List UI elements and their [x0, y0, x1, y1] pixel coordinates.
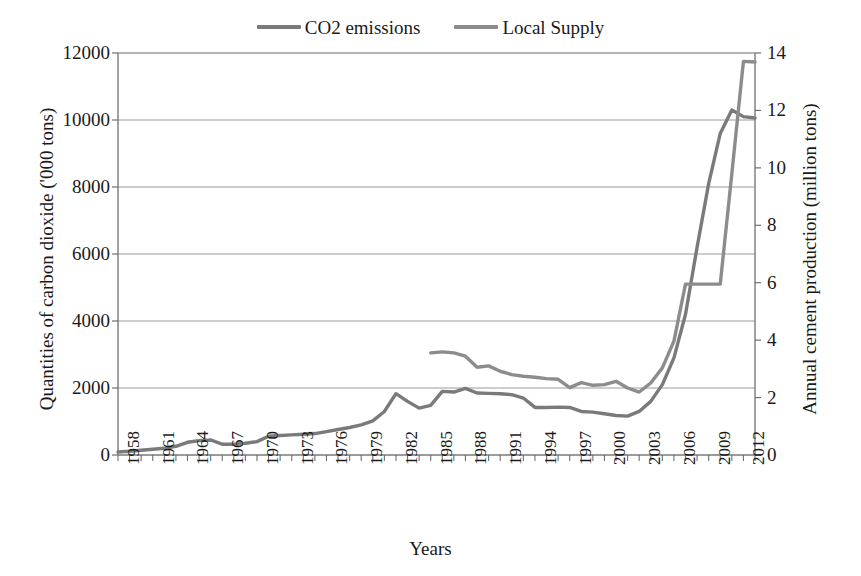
series-line-co2-emissions [118, 110, 755, 452]
y-tick-left-0: 0 [30, 445, 110, 464]
series-line-local-supply [431, 61, 755, 392]
x-tick-2012: 2012 [750, 431, 767, 465]
x-tick-1976: 1976 [333, 431, 350, 465]
x-tick-1961: 1961 [160, 431, 177, 465]
x-tick-1994: 1994 [542, 431, 559, 465]
chart-figure: CO2 emissions Local Supply Quantities of… [0, 0, 861, 576]
x-tick-1967: 1967 [229, 431, 246, 465]
y-tick-right-0: 0 [767, 445, 827, 464]
x-tick-1964: 1964 [194, 431, 211, 465]
plot-area: 020004000600080001000012000 02468101214 … [0, 0, 861, 576]
x-tick-2000: 2000 [611, 431, 628, 465]
plot-svg [0, 0, 861, 576]
gridlines [118, 53, 755, 388]
x-tick-1997: 1997 [577, 431, 594, 465]
x-tick-2003: 2003 [646, 431, 663, 465]
y-tick-left-8000: 8000 [30, 177, 110, 196]
x-tick-1973: 1973 [299, 431, 316, 465]
y-tick-left-10000: 10000 [30, 110, 110, 129]
x-tick-2006: 2006 [681, 431, 698, 465]
x-tick-1979: 1979 [368, 431, 385, 465]
y-tick-right-8: 8 [767, 215, 827, 234]
y-tick-right-12: 12 [767, 100, 827, 119]
y-tick-right-2: 2 [767, 388, 827, 407]
x-tick-1982: 1982 [403, 431, 420, 465]
y-tick-right-14: 14 [767, 43, 827, 62]
y-tick-right-6: 6 [767, 273, 827, 292]
y-tick-right-10: 10 [767, 158, 827, 177]
y-tick-left-6000: 6000 [30, 244, 110, 263]
y-tick-left-2000: 2000 [30, 378, 110, 397]
x-tick-2009: 2009 [716, 431, 733, 465]
y-tick-left-12000: 12000 [30, 43, 110, 62]
x-tick-1991: 1991 [507, 431, 524, 465]
y-tick-left-4000: 4000 [30, 311, 110, 330]
x-tick-1970: 1970 [264, 431, 281, 465]
x-tick-1985: 1985 [438, 431, 455, 465]
y-tick-right-4: 4 [767, 330, 827, 349]
x-tick-1988: 1988 [472, 431, 489, 465]
x-tick-1958: 1958 [125, 431, 142, 465]
